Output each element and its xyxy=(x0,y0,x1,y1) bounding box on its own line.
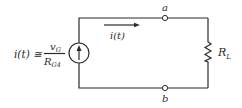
current-source xyxy=(69,43,89,63)
arrow-up-icon xyxy=(77,45,82,51)
current-arrow xyxy=(104,23,140,27)
load-label: RL xyxy=(217,46,231,61)
node-a-label: a xyxy=(162,2,168,13)
circuit-wires xyxy=(79,18,208,88)
current-label: i(t) xyxy=(110,30,125,41)
source-expression: i(t) ≅ vG RG4 xyxy=(14,41,65,69)
circuit-diagram: i(t) a b RL i(t) ≅ vG RG4 xyxy=(0,0,242,108)
terminal-a xyxy=(162,15,167,20)
expression-numerator: vG xyxy=(50,41,61,54)
expression-denominator: RG4 xyxy=(43,56,61,69)
expression-lhs: i(t) ≅ xyxy=(14,48,43,60)
terminal-b xyxy=(162,85,167,90)
arrow-right-icon xyxy=(134,23,140,27)
node-b-label: b xyxy=(162,93,168,104)
resistor-symbol xyxy=(205,40,211,64)
